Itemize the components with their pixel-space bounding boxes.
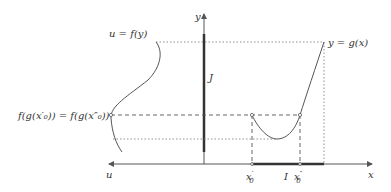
- point-x0-prime: [250, 113, 253, 116]
- f-curve-label: u = f(y): [109, 28, 147, 39]
- point-f-level: [109, 113, 112, 116]
- curve-f: [111, 42, 160, 152]
- y-axis-label: y: [194, 11, 201, 22]
- I-label: I: [283, 171, 289, 182]
- u-axis-label: u: [106, 169, 112, 180]
- x0-prime-label: x′0: [246, 170, 254, 185]
- x-axis-label: x: [368, 169, 374, 180]
- tick-x0-dprime: [299, 163, 302, 166]
- curve-g: [252, 42, 324, 139]
- point-x0-dprime: [298, 113, 301, 116]
- g-curve-label: y = g(x): [327, 37, 368, 48]
- diagram-canvas: y x u y = g(x) u = f(y) J I x′0 x″0 f(g(…: [0, 0, 391, 192]
- tick-x0-prime: [251, 163, 254, 166]
- J-label: J: [207, 72, 214, 83]
- equation-label: f(g(x′₀)) = f(g(x″₀)): [17, 110, 110, 121]
- x0-dprime-label: x″0: [294, 170, 303, 185]
